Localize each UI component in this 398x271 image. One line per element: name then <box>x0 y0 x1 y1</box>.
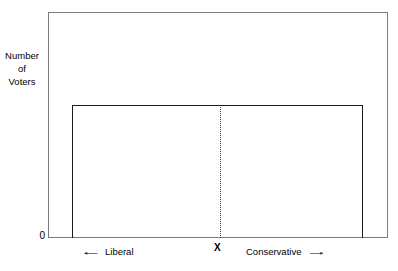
y-axis-label-line-3: Voters <box>0 75 44 88</box>
y-axis-label-line-2: of <box>0 62 44 75</box>
y-axis-label: Number of Voters <box>0 49 44 88</box>
y-axis-label-line-1: Number <box>0 49 44 62</box>
conservative-label: Conservative <box>246 244 301 259</box>
liberal-label: Liberal <box>105 244 134 259</box>
x-axis-annotations: Liberal X Conservative <box>48 244 388 264</box>
left-arrow-icon <box>80 244 100 259</box>
y-axis-zero-tick: 0 <box>30 230 45 242</box>
chart-canvas: Number of Voters 0 Liberal X Conservativ… <box>0 0 398 271</box>
uniform-distribution-block <box>72 105 363 238</box>
median-dotted-line <box>220 105 221 238</box>
median-marker-label: X <box>214 240 221 255</box>
liberal-direction-annotation: Liberal <box>80 244 134 259</box>
right-arrow-icon <box>306 244 326 259</box>
conservative-direction-annotation: Conservative <box>246 244 326 259</box>
